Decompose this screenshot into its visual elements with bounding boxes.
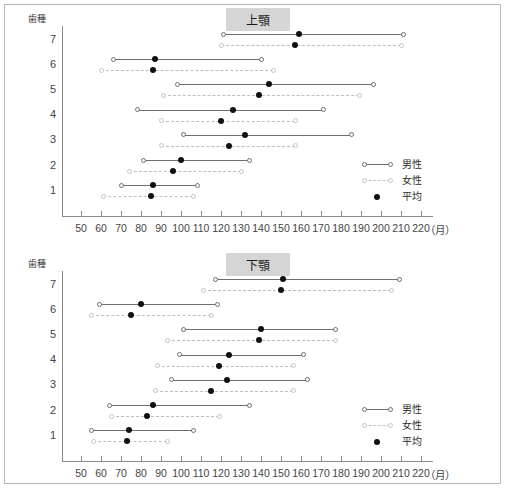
y-axis-title: 歯種 (28, 257, 46, 270)
x-axis-tick (361, 211, 362, 216)
y-axis-line (62, 271, 63, 461)
range-endpoint-male-min (175, 82, 180, 87)
x-axis-tick (181, 211, 182, 216)
range-line-male (143, 160, 249, 161)
mean-marker-male (266, 81, 272, 87)
legend-line-female (364, 425, 390, 426)
mean-marker-female (148, 193, 154, 199)
mean-marker-male (296, 31, 302, 37)
range-line-female (111, 416, 219, 417)
range-endpoint-female-min (161, 93, 166, 98)
range-endpoint-female-min (159, 143, 164, 148)
range-endpoint-female-max (399, 43, 404, 48)
x-axis-tick-label: 220 (409, 222, 433, 234)
range-line-female (161, 121, 295, 122)
legend-endpoint-female-1 (388, 423, 393, 428)
range-endpoint-male-max (371, 82, 376, 87)
panel-title: 下顎 (226, 253, 290, 276)
mean-marker-female (256, 92, 262, 98)
y-axis-tick-label: 1 (40, 429, 56, 441)
range-endpoint-female-min (91, 439, 96, 444)
mean-marker-male (226, 352, 232, 358)
range-endpoint-female-min (159, 118, 164, 123)
range-line-male (91, 430, 193, 431)
legend-mean-marker (374, 439, 380, 445)
x-axis-tick (81, 456, 82, 461)
mean-marker-male (126, 427, 132, 433)
range-endpoint-female-min (127, 169, 132, 174)
range-endpoint-male-min (181, 132, 186, 137)
chart-page: 上顎 歯種 （月） 506070809010011012013014015016… (0, 0, 507, 489)
range-endpoint-female-max (389, 288, 394, 293)
range-line-male (183, 135, 351, 136)
range-endpoint-male-max (195, 183, 200, 188)
range-endpoint-female-min (101, 194, 106, 199)
mean-marker-male (178, 157, 184, 163)
x-axis-tick (141, 456, 142, 461)
range-endpoint-male-min (97, 302, 102, 307)
upper-jaw-panel: 上顎 歯種 （月） 506070809010011012013014015016… (0, 0, 507, 244)
x-axis-tick (321, 456, 322, 461)
mean-marker-female (170, 168, 176, 174)
legend-endpoint-male-0 (362, 407, 367, 412)
mean-marker-male (152, 56, 158, 62)
range-endpoint-male-min (213, 277, 218, 282)
range-endpoint-male-max (259, 57, 264, 62)
y-axis-tick-label: 5 (40, 328, 56, 340)
x-axis-tick (221, 211, 222, 216)
x-axis-tick-label: 220 (409, 467, 433, 479)
y-axis-title: 歯種 (28, 12, 46, 25)
x-axis-tick (421, 456, 422, 461)
x-axis-tick (421, 211, 422, 216)
legend-endpoint-female-0 (362, 178, 367, 183)
range-endpoint-female-min (99, 68, 104, 73)
range-line-female (93, 441, 167, 442)
legend-line-male (364, 409, 390, 410)
x-axis-tick (181, 456, 182, 461)
x-axis-tick (401, 211, 402, 216)
range-endpoint-male-max (301, 352, 306, 357)
range-endpoint-female-max (333, 338, 338, 343)
lower-jaw-panel: 下顎 歯種 （月） 506070809010011012013014015016… (0, 245, 507, 489)
range-endpoint-female-max (291, 363, 296, 368)
mean-marker-female (278, 287, 284, 293)
legend-endpoint-male-1 (388, 162, 393, 167)
x-axis-tick (321, 211, 322, 216)
x-axis-tick (381, 211, 382, 216)
x-axis-tick (341, 456, 342, 461)
x-axis-line (62, 216, 433, 217)
mean-marker-female (128, 312, 134, 318)
range-endpoint-male-max (401, 32, 406, 37)
range-line-female (157, 366, 293, 367)
mean-marker-male (230, 107, 236, 113)
y-axis-tick-label: 3 (40, 133, 56, 145)
range-line-female (203, 290, 391, 291)
range-line-male (109, 405, 249, 406)
range-endpoint-female-min (109, 414, 114, 419)
range-line-female (167, 340, 335, 341)
y-axis-tick-label: 2 (40, 159, 56, 171)
x-axis-line (62, 461, 433, 462)
range-endpoint-female-min (165, 338, 170, 343)
range-endpoint-female-min (155, 363, 160, 368)
mean-marker-male (224, 377, 230, 383)
legend-line-female (364, 180, 390, 181)
x-axis-tick (301, 211, 302, 216)
mean-marker-male (150, 182, 156, 188)
x-axis-tick (101, 211, 102, 216)
range-line-male (179, 355, 303, 356)
mean-marker-female (208, 388, 214, 394)
y-axis-tick-label: 4 (40, 353, 56, 365)
mean-marker-female (256, 337, 262, 343)
range-endpoint-female-max (357, 93, 362, 98)
range-endpoint-female-min (201, 288, 206, 293)
y-axis-tick-label: 3 (40, 378, 56, 390)
legend-label-mean: 平均 (402, 190, 422, 204)
legend-label-female: 女性 (402, 419, 422, 433)
range-endpoint-male-max (247, 158, 252, 163)
mean-marker-female (150, 67, 156, 73)
x-axis-tick (81, 211, 82, 216)
range-line-male (99, 304, 217, 305)
x-axis-tick (241, 211, 242, 216)
range-endpoint-female-max (209, 313, 214, 318)
